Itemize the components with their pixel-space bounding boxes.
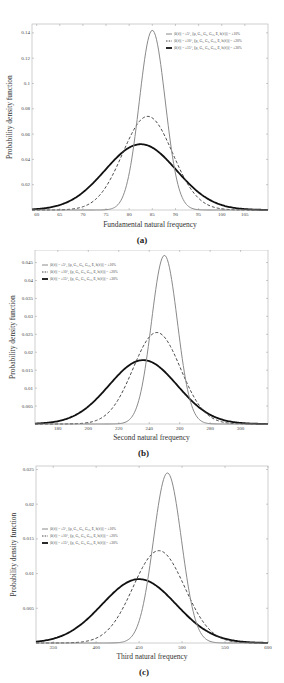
x-tick-label: 95 <box>196 212 202 217</box>
legend-entry: |θ(ℓ)| = ±5°, |(ρ, G₁, G₂, G₁₂, E, h(ℓ))… <box>50 263 116 268</box>
y-tick-label: 0.1 <box>24 81 31 86</box>
y-axis: 0.0050.010.0150.020.025 <box>23 467 268 611</box>
chart-a-svg: 60657075808590951001050.020.040.060.080.… <box>0 0 284 250</box>
x-tick-label: 220 <box>115 426 123 431</box>
y-tick-label: 0.035 <box>22 296 34 301</box>
x-tick-label: 240 <box>145 426 153 431</box>
y-tick-label: 0.08 <box>21 106 30 111</box>
series-group <box>36 473 268 643</box>
y-tick-label: 0.14 <box>21 30 30 35</box>
series-group <box>32 30 268 210</box>
panel-label: (a) <box>137 235 148 245</box>
x-tick-label: 260 <box>176 426 184 431</box>
legend-entry: |θ(ℓ)| = ±10°, |(ρ, G₁, G₂, G₁₂, E, h(ℓ)… <box>50 270 118 275</box>
chart-c-svg: 3504004505005506000.0050.010.0150.020.02… <box>0 460 284 683</box>
legend-entry: |θ(ℓ)| = ±15°, |(ρ, G₁, G₂, G₁₂, E, h(ℓ)… <box>50 541 118 546</box>
x-tick-label: 450 <box>135 645 143 650</box>
legend-entry: |θ(ℓ)| = ±5°, |(ρ, G₁, G₂, G₁₂, E, h(ℓ))… <box>174 32 240 37</box>
x-tick-label: 65 <box>57 212 63 217</box>
y-axis-label: Probability density function <box>8 295 17 379</box>
plot-frame <box>35 250 268 424</box>
y-tick-label: 0.06 <box>21 132 30 137</box>
x-tick-label: 400 <box>92 645 100 650</box>
y-axis: 0.020.040.060.080.10.120.14 <box>21 30 268 187</box>
series-line-thick-black <box>36 579 268 643</box>
y-tick-label: 0.01 <box>24 386 33 391</box>
x-tick-label: 80 <box>127 212 133 217</box>
legend: |θ(ℓ)| = ±5°, |(ρ, G₁, G₂, G₁₂, E, h(ℓ))… <box>166 32 242 51</box>
x-tick-label: 500 <box>178 645 186 650</box>
series-line-dashed <box>35 333 268 424</box>
series-line-solid-gray <box>32 30 268 210</box>
x-tick-label: 60 <box>34 212 40 217</box>
legend-entry: |θ(ℓ)| = ±15°, |(ρ, G₁, G₂, G₁₂, E, h(ℓ)… <box>174 46 242 51</box>
x-tick-label: 105 <box>241 212 249 217</box>
y-axis-label: Probability density function <box>5 75 14 159</box>
legend-entry: |θ(ℓ)| = ±10°, |(ρ, G₁, G₂, G₁₂, E, h(ℓ)… <box>174 39 242 44</box>
legend-entry: |θ(ℓ)| = ±10°, |(ρ, G₁, G₂, G₁₂, E, h(ℓ)… <box>50 534 118 539</box>
x-tick-label: 90 <box>173 212 179 217</box>
plot-frame <box>36 466 268 643</box>
x-tick-label: 600 <box>264 645 272 650</box>
legend-entry: |θ(ℓ)| = ±5°, |(ρ, G₁, G₂, G₁₂, E, h(ℓ))… <box>50 527 116 532</box>
legend: |θ(ℓ)| = ±5°, |(ρ, G₁, G₂, G₁₂, E, h(ℓ))… <box>42 527 118 546</box>
panel-label: (c) <box>139 667 149 677</box>
x-axis-label: Fundamental natural frequency <box>103 220 197 229</box>
legend-entry: |θ(ℓ)| = ±15°, |(ρ, G₁, G₂, G₁₂, E, h(ℓ)… <box>50 277 118 282</box>
y-tick-label: 0.02 <box>25 502 34 507</box>
y-axis-label: Probability density function <box>9 512 18 596</box>
x-tick-label: 200 <box>85 426 93 431</box>
chart-panel-c: 3504004505005506000.0050.010.0150.020.02… <box>0 460 284 683</box>
y-tick-label: 0.005 <box>23 606 35 611</box>
x-axis: 6065707580859095100105 <box>34 24 249 217</box>
y-tick-label: 0.005 <box>22 404 34 409</box>
x-axis-label: Third natural frequency <box>116 652 187 661</box>
y-tick-label: 0.04 <box>24 278 33 283</box>
y-tick-label: 0.02 <box>24 350 33 355</box>
y-tick-label: 0.03 <box>24 314 33 319</box>
series-line-thick-black <box>32 144 268 210</box>
y-tick-label: 0.015 <box>22 368 34 373</box>
y-tick-label: 0.025 <box>22 332 34 337</box>
x-tick-label: 70 <box>80 212 86 217</box>
series-line-dashed <box>36 551 268 643</box>
y-tick-label: 0.02 <box>21 182 30 187</box>
x-tick-label: 300 <box>237 426 245 431</box>
chart-panel-a: 60657075808590951001050.020.040.060.080.… <box>0 0 284 250</box>
y-tick-label: 0.045 <box>22 260 34 265</box>
y-tick-label: 0.015 <box>23 536 35 541</box>
y-axis: 0.0050.010.0150.020.0250.030.0350.040.04… <box>22 260 268 409</box>
series-line-thick-black <box>35 360 268 424</box>
chart-panel-b: 1802002202402602803000.0050.010.0150.020… <box>0 250 284 460</box>
x-tick-label: 550 <box>221 645 229 650</box>
x-tick-label: 100 <box>218 212 226 217</box>
x-tick-label: 350 <box>49 645 57 650</box>
x-tick-label: 180 <box>54 426 62 431</box>
y-tick-label: 0.04 <box>21 157 30 162</box>
y-tick-label: 0.01 <box>25 571 34 576</box>
plot-frame <box>32 24 268 210</box>
x-tick-label: 280 <box>206 426 214 431</box>
series-line-dashed <box>32 116 268 210</box>
x-tick-label: 75 <box>104 212 110 217</box>
chart-b-svg: 1802002202402602803000.0050.010.0150.020… <box>0 250 284 460</box>
series-line-solid-gray <box>36 473 268 643</box>
panel-label: (b) <box>138 448 149 458</box>
legend: |θ(ℓ)| = ±5°, |(ρ, G₁, G₂, G₁₂, E, h(ℓ))… <box>42 263 118 282</box>
x-axis-label: Second natural frequency <box>113 433 190 442</box>
y-tick-label: 0.12 <box>21 56 30 61</box>
y-tick-label: 0.025 <box>23 467 35 472</box>
x-tick-label: 85 <box>150 212 156 217</box>
